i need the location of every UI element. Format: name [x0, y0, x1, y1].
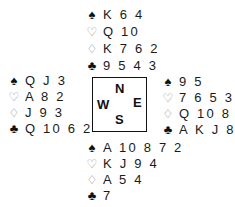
- west-clubs: Q 10 6 2: [25, 121, 92, 137]
- heart-icon: ♡: [8, 89, 20, 105]
- north-hearts: Q 10: [103, 24, 140, 40]
- west-spades: Q J 3: [25, 73, 67, 89]
- heart-icon: ♡: [86, 24, 98, 40]
- south-hearts: K J 9 4: [103, 156, 159, 172]
- south-spades: A 10 8 7 2: [103, 140, 184, 156]
- diamond-icon: ♢: [162, 106, 174, 122]
- east-spades: 9 5: [179, 74, 204, 90]
- diamond-icon: ♢: [86, 41, 98, 57]
- spade-icon: ♠: [162, 74, 174, 90]
- east-diamonds: Q 10 8: [179, 106, 231, 122]
- north-spades: K 6 4: [103, 7, 144, 23]
- spade-icon: ♠: [8, 73, 20, 89]
- club-icon: ♣: [162, 122, 174, 138]
- spade-icon: ♠: [86, 7, 98, 23]
- east-clubs: A K J 8: [179, 122, 235, 138]
- south-clubs: 7: [103, 188, 112, 204]
- compass-box: N W E S: [92, 77, 147, 132]
- west-diamonds: J 9 3: [25, 105, 64, 121]
- compass-north: N: [115, 82, 124, 96]
- east-hearts: 7 6 5 3: [179, 90, 234, 106]
- club-icon: ♣: [86, 58, 98, 74]
- heart-icon: ♡: [86, 156, 98, 172]
- north-clubs: 9 5 4 3: [103, 58, 158, 74]
- south-diamonds: A 5 4: [103, 172, 144, 188]
- compass-south: S: [115, 113, 124, 127]
- compass-west: W: [97, 98, 109, 112]
- club-icon: ♣: [86, 188, 98, 204]
- club-icon: ♣: [8, 121, 20, 137]
- west-hearts: A 8 2: [25, 89, 66, 105]
- diamond-icon: ♢: [86, 172, 98, 188]
- spade-icon: ♠: [86, 140, 98, 156]
- heart-icon: ♡: [162, 90, 174, 106]
- compass-east: E: [133, 96, 142, 110]
- north-diamonds: K 7 6 2: [103, 41, 160, 57]
- diamond-icon: ♢: [8, 105, 20, 121]
